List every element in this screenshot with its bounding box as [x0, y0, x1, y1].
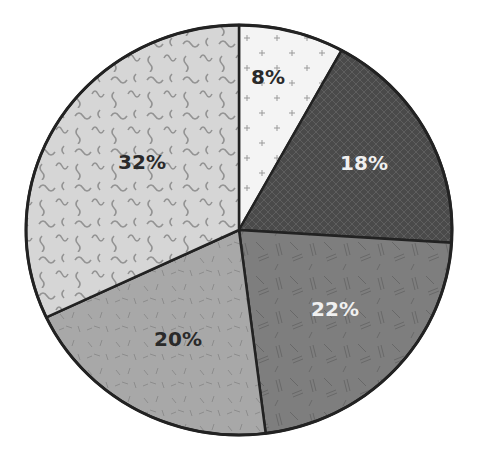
slice-label: 22%: [311, 297, 359, 321]
pie-slices: [26, 25, 452, 435]
pie-slice-22pct: [239, 230, 452, 433]
slice-label: 20%: [154, 327, 202, 351]
slice-label: 32%: [118, 150, 166, 174]
slice-label: 18%: [340, 151, 388, 175]
pie-chart: 8%18%22%20%32%: [0, 0, 477, 463]
slice-label: 8%: [251, 65, 285, 89]
